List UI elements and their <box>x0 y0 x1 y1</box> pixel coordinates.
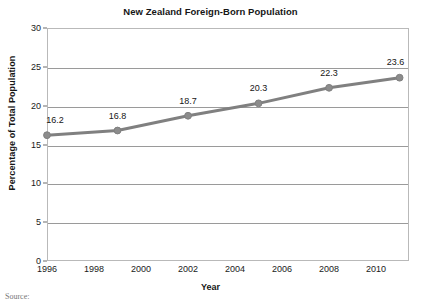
data-point-label: 20.3 <box>250 83 268 93</box>
y-axis-tick-label: 30 <box>11 23 41 33</box>
y-axis-tick-label: 5 <box>11 217 41 227</box>
chart-container: New Zealand Foreign-Born Population Perc… <box>0 0 421 302</box>
x-axis-tick-label: 2008 <box>306 264 352 274</box>
gridline <box>48 146 408 147</box>
y-axis-tick-mark <box>43 66 47 67</box>
y-axis-tick-mark <box>43 28 47 29</box>
y-axis-tick-label: 20 <box>11 101 41 111</box>
y-axis-tick-mark <box>43 183 47 184</box>
x-axis-tick-label: 1996 <box>24 264 70 274</box>
x-axis-tick-label: 2004 <box>212 264 258 274</box>
y-axis-tick-label: 15 <box>11 140 41 150</box>
gridline <box>48 68 408 69</box>
y-axis-title: Percentage of Total Population <box>7 3 17 243</box>
gridline <box>48 184 408 185</box>
source-note: Source: <box>5 292 29 301</box>
data-point-label: 18.7 <box>179 96 197 106</box>
data-point-label: 22.3 <box>320 68 338 78</box>
chart-title: New Zealand Foreign-Born Population <box>0 6 421 17</box>
gridline <box>48 107 408 108</box>
y-axis-tick-label: 10 <box>11 178 41 188</box>
gridline <box>48 223 408 224</box>
y-axis-tick-label: 25 <box>11 62 41 72</box>
y-axis-tick-mark <box>43 105 47 106</box>
y-axis-tick-mark <box>43 261 47 262</box>
x-axis-tick-label: 2000 <box>118 264 164 274</box>
x-axis-tick-label: 1998 <box>71 264 117 274</box>
y-axis-tick-mark <box>43 144 47 145</box>
data-point-label: 16.8 <box>109 111 127 121</box>
data-point-label: 23.6 <box>387 57 405 67</box>
x-axis-title: Year <box>0 282 421 292</box>
y-axis-tick-mark <box>43 222 47 223</box>
x-axis-tick-label: 2010 <box>353 264 399 274</box>
data-point-label: 16.2 <box>46 115 64 125</box>
plot-area <box>47 28 409 261</box>
x-axis-tick-label: 2002 <box>165 264 211 274</box>
x-axis-tick-label: 2006 <box>259 264 305 274</box>
